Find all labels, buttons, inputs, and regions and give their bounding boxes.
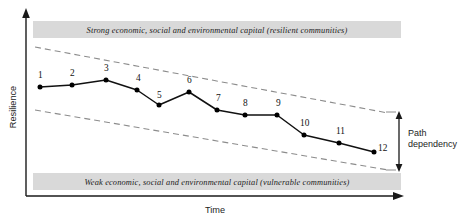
data-point-9: 9	[275, 98, 282, 118]
data-point-label: 3	[104, 63, 109, 73]
data-point-label: 11	[336, 126, 345, 136]
data-point-label: 7	[216, 93, 221, 103]
top-band-label: Strong economic, social and environmenta…	[87, 26, 348, 35]
data-point-marker	[38, 85, 43, 90]
path-dependency-envelope	[35, 47, 388, 170]
path-dependency-label-line2: dependency	[408, 139, 458, 149]
top-capital-band: Strong economic, social and environmenta…	[33, 21, 401, 38]
data-point-marker	[337, 141, 342, 146]
path-dependency-arrowhead-bottom	[396, 164, 403, 172]
path-dependency-label-line1: Path	[408, 128, 427, 138]
data-point-1: 1	[38, 70, 44, 90]
data-point-2: 2	[70, 68, 76, 88]
data-point-3: 3	[104, 63, 110, 83]
data-point-7: 7	[215, 93, 222, 113]
data-points-layer: 123456789101112	[38, 63, 388, 155]
data-point-marker	[135, 88, 140, 93]
envelope-lower-dashed-line	[35, 110, 388, 170]
data-point-marker	[302, 133, 307, 138]
data-point-6: 6	[187, 75, 193, 95]
data-point-marker	[70, 83, 75, 88]
bottom-band-label: Weak economic, social and environmental …	[84, 178, 349, 187]
data-point-label: 1	[38, 70, 43, 80]
path-dependency-arrow	[386, 111, 402, 172]
path-dependency-annotation: Path dependency	[408, 128, 458, 149]
data-point-marker	[157, 103, 162, 108]
data-point-label: 10	[300, 118, 310, 128]
data-point-12: 12	[372, 143, 388, 155]
data-point-marker	[372, 150, 377, 155]
data-point-5: 5	[157, 90, 163, 108]
data-point-marker	[104, 78, 109, 83]
bottom-capital-band: Weak economic, social and environmental …	[33, 173, 401, 190]
envelope-upper-dashed-line	[35, 47, 388, 113]
data-point-label: 6	[187, 75, 192, 85]
data-point-8: 8	[243, 98, 249, 118]
data-point-marker	[243, 113, 248, 118]
y-axis-arrowhead	[22, 8, 30, 18]
data-point-10: 10	[300, 118, 310, 138]
x-axis-title: Time	[205, 205, 225, 215]
path-dependency-arrowhead-top	[396, 111, 403, 119]
data-point-label: 8	[243, 98, 248, 108]
resilience-series-line	[40, 80, 374, 152]
y-axis-title: Resilience	[8, 86, 18, 128]
data-point-label: 5	[157, 90, 162, 100]
resilience-path-dependency-diagram: Strong economic, social and environmenta…	[0, 0, 459, 221]
data-point-label: 2	[70, 68, 75, 78]
data-point-marker	[215, 108, 220, 113]
data-point-11: 11	[336, 126, 345, 146]
data-point-label: 4	[136, 73, 141, 83]
x-axis-arrowhead	[393, 192, 404, 200]
data-point-4: 4	[135, 73, 142, 93]
data-point-marker	[275, 113, 280, 118]
data-point-marker	[187, 90, 192, 95]
data-point-label: 9	[276, 98, 281, 108]
data-point-label: 12	[378, 143, 388, 153]
